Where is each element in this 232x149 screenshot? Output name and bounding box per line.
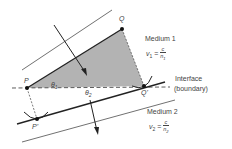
point-qprime-dot bbox=[142, 84, 146, 88]
point-pprime-dot bbox=[35, 117, 39, 121]
interface-label-line1: Interface bbox=[175, 75, 202, 83]
label-q: Q bbox=[119, 15, 124, 23]
label-qprime: Q' bbox=[141, 89, 148, 97]
point-q-dot bbox=[120, 27, 124, 31]
interface-label-line2: (boundary) bbox=[174, 85, 208, 93]
label-p: P bbox=[24, 77, 29, 85]
label-pprime: P' bbox=[32, 123, 38, 131]
p-to-pprime-line bbox=[27, 88, 37, 119]
refracted-arrowhead-icon bbox=[94, 127, 99, 135]
label-theta1: θ1 bbox=[51, 81, 58, 91]
medium2-velocity: v2 = cn2 bbox=[149, 119, 169, 135]
medium2-title: Medium 2 bbox=[147, 108, 178, 116]
shaded-triangle bbox=[27, 29, 144, 88]
refracted-ray bbox=[90, 100, 97, 131]
medium1-velocity: v1 = cn1 bbox=[146, 46, 166, 62]
point-p-dot bbox=[25, 86, 29, 90]
label-theta2: θ2 bbox=[85, 89, 92, 99]
medium1-title: Medium 1 bbox=[145, 35, 176, 43]
